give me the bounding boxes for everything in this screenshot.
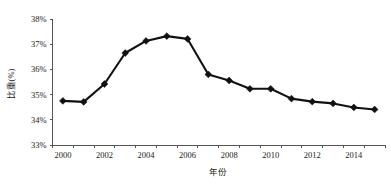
series-line-bizhong: [63, 36, 375, 109]
data-point-marker: [330, 100, 337, 107]
data-point-marker: [163, 33, 170, 40]
y-tick-label: 34%: [31, 115, 47, 125]
y-tick-label: 37%: [31, 39, 47, 49]
x-axis-tick-labels: 20002002200420062008201020122014: [54, 150, 363, 160]
x-tick-label: 2008: [221, 150, 238, 160]
line-chart: 38%37%36%35%34%33% 200020022004200620082…: [0, 0, 391, 185]
data-point-marker: [350, 104, 357, 111]
data-point-marker: [288, 95, 295, 102]
x-tick-label: 2002: [96, 150, 113, 160]
plot-area: 38%37%36%35%34%33% 200020022004200620082…: [31, 14, 385, 160]
data-point-marker: [371, 106, 378, 113]
x-tick-label: 2014: [345, 150, 363, 160]
y-tick-label: 33%: [31, 140, 47, 150]
x-tick-label: 2012: [304, 150, 321, 160]
x-tick-label: 2000: [54, 150, 71, 160]
series-markers: [59, 33, 378, 113]
data-point-marker: [247, 85, 254, 92]
x-axis-title: 年份: [209, 167, 227, 177]
y-tick-label: 35%: [31, 90, 47, 100]
x-tick-label: 2010: [262, 150, 279, 160]
data-point-marker: [59, 98, 66, 105]
x-tick-label: 2006: [179, 150, 196, 160]
x-tick-label: 2004: [138, 150, 156, 160]
data-point-marker: [226, 77, 233, 84]
data-point-marker: [267, 85, 274, 92]
y-axis-tick-labels: 38%37%36%35%34%33%: [31, 14, 47, 150]
y-tick-label: 36%: [31, 64, 47, 74]
y-tick-label: 38%: [31, 14, 47, 24]
y-axis-title: 比重(%): [6, 68, 16, 99]
chart-figure: 38%37%36%35%34%33% 200020022004200620082…: [0, 0, 391, 185]
data-point-marker: [309, 98, 316, 105]
